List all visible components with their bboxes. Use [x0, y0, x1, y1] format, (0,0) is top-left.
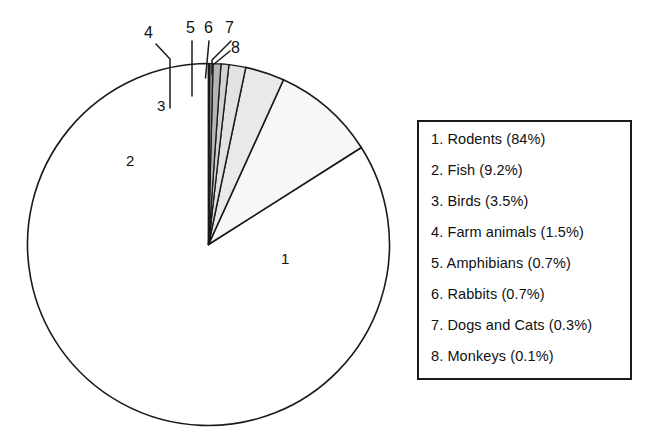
pie-slice-label-1: 1 — [281, 251, 289, 266]
pie-slice-label-2: 2 — [126, 153, 134, 168]
legend-item: 3. Birds (3.5%) — [431, 194, 630, 209]
pie-slice-label-3: 3 — [157, 98, 165, 113]
legend-item: 5. Amphibians (0.7%) — [431, 256, 630, 271]
leader-line-8 — [214, 51, 230, 64]
pie-callout-label-6: 6 — [204, 20, 213, 36]
pie-callout-label-4: 4 — [144, 25, 153, 41]
legend-item: 2. Fish (9.2%) — [431, 163, 630, 178]
legend-item: 4. Farm animals (1.5%) — [431, 225, 630, 240]
legend-item: 6. Rabbits (0.7%) — [431, 287, 630, 302]
legend-item: 8. Monkeys (0.1%) — [431, 349, 630, 364]
pie-callout-label-7: 7 — [225, 20, 234, 36]
pie-callout-label-8: 8 — [231, 40, 240, 56]
legend-item: 7. Dogs and Cats (0.3%) — [431, 318, 630, 333]
pie-chart-figure: 1 2 3 4 5 6 7 8 1. Rodents (84%) 2. Fish… — [0, 0, 651, 448]
pie-callout-label-5: 5 — [186, 20, 195, 36]
legend-item: 1. Rodents (84%) — [431, 132, 630, 147]
chart-legend: 1. Rodents (84%) 2. Fish (9.2%) 3. Birds… — [417, 120, 632, 380]
